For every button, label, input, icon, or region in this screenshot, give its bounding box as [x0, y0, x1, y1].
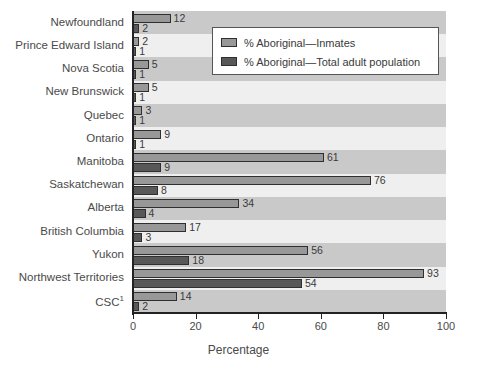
- bar-value-label: 8: [161, 186, 167, 195]
- bar-value-label: 5: [152, 60, 158, 69]
- x-axis-tick-label: 60: [315, 320, 327, 332]
- bar-value-label: 2: [142, 302, 148, 311]
- bar-value-label: 34: [242, 199, 254, 208]
- bar-value-label: 3: [145, 106, 151, 115]
- bar-value-label: 17: [189, 223, 201, 232]
- bar-value-label: 56: [311, 246, 323, 255]
- legend-label: % Aboriginal—Total adult population: [244, 56, 420, 68]
- bar-inmates: [133, 176, 371, 185]
- x-axis-tick-label: 80: [377, 320, 389, 332]
- legend-swatch-total-icon: [221, 57, 237, 66]
- bar-value-label: 3: [145, 233, 151, 242]
- bar-value-label: 9: [164, 163, 170, 172]
- bar-inmates: [133, 292, 177, 301]
- bar-inmates: [133, 269, 424, 278]
- bar-inmates: [133, 130, 161, 139]
- bar-value-label: 9: [164, 130, 170, 139]
- bar-value-label: 4: [149, 209, 155, 218]
- legend-label: % Aboriginal—Inmates: [244, 37, 355, 49]
- y-axis-label: British Columbia: [40, 226, 124, 238]
- bar-inmates: [133, 153, 324, 162]
- bar-value-label: 61: [327, 153, 339, 162]
- bar-value-label: 1: [139, 140, 145, 149]
- y-axis-label: New Brunswick: [45, 86, 124, 98]
- y-axis-label: Prince Edward Island: [15, 40, 124, 52]
- bar-value-label: 1: [139, 93, 145, 102]
- x-axis-line: [132, 312, 447, 314]
- y-axis-label: CSC1: [95, 295, 124, 308]
- bar-value-label: 14: [180, 292, 192, 301]
- y-axis-label: Northwest Territories: [19, 272, 124, 284]
- y-axis-labels: NewfoundlandPrince Edward IslandNova Sco…: [0, 11, 128, 313]
- bar-value-label: 1: [139, 116, 145, 125]
- x-axis-tick-label: 40: [252, 320, 264, 332]
- x-axis-tick: [446, 314, 447, 319]
- y-axis-label: Manitoba: [77, 156, 124, 168]
- bar-inmates: [133, 223, 186, 232]
- legend-swatch-inmates-icon: [221, 38, 237, 47]
- bar-value-label: 5: [152, 83, 158, 92]
- bar-inmates: [133, 14, 171, 23]
- legend-item: % Aboriginal—Total adult population: [221, 53, 430, 70]
- y-axis-line: [132, 11, 134, 315]
- bar-total: [133, 233, 142, 242]
- x-axis-title: Percentage: [0, 343, 477, 357]
- x-axis-tick: [196, 314, 197, 319]
- bar-inmates: [133, 246, 308, 255]
- chart-legend: % Aboriginal—Inmates % Aboriginal—Total …: [212, 27, 439, 75]
- bar-value-label: 93: [427, 269, 439, 278]
- bar-value-label: 1: [139, 70, 145, 79]
- x-axis-tick: [133, 314, 134, 319]
- bar-total: [133, 256, 189, 265]
- y-axis-label: Nova Scotia: [62, 63, 124, 75]
- bar-total: [133, 186, 158, 195]
- x-axis-tick: [321, 314, 322, 319]
- y-axis-label: Quebec: [84, 110, 124, 122]
- bar-value-label: 1: [139, 47, 145, 56]
- chart-figure: 122215151319161976834417356189354142 New…: [0, 0, 477, 373]
- x-axis-tick: [258, 314, 259, 319]
- bar-total: [133, 279, 302, 288]
- bar-value-label: 2: [142, 24, 148, 33]
- y-axis-label: Saskatchewan: [49, 179, 124, 191]
- x-axis-tick-label: 20: [189, 320, 201, 332]
- x-axis-tick-label: 100: [437, 320, 455, 332]
- x-axis-tick: [383, 314, 384, 319]
- bar-value-label: 12: [174, 14, 186, 23]
- y-axis-label: Ontario: [86, 133, 124, 145]
- bar-total: [133, 163, 161, 172]
- legend-item: % Aboriginal—Inmates: [221, 34, 430, 51]
- bar-value-label: 18: [192, 256, 204, 265]
- bar-total: [133, 209, 146, 218]
- bar-value-label: 54: [305, 279, 317, 288]
- bar-value-label: 76: [374, 176, 386, 185]
- x-axis-tick-label: 0: [130, 320, 136, 332]
- y-axis-label: Yukon: [92, 249, 124, 261]
- y-axis-label: Newfoundland: [50, 17, 124, 29]
- y-axis-label: Alberta: [88, 202, 124, 214]
